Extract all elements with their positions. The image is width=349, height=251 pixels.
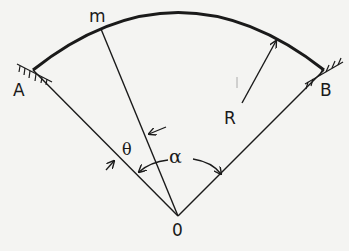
label-A: A [13, 80, 25, 100]
arch-diagram: m A B R θ α 0 [0, 0, 349, 251]
radius-R-arrow [242, 41, 276, 103]
alpha-arc-left [139, 160, 168, 172]
radius-line-Om [101, 29, 178, 216]
label-theta: θ [122, 140, 132, 159]
radius-line-OA [33, 70, 178, 216]
label-O: 0 [172, 220, 183, 240]
label-alpha: α [169, 145, 182, 167]
theta-arrow-to-OA [106, 161, 114, 170]
theta-arrow-to-Om [149, 127, 166, 134]
label-B: B [320, 80, 332, 100]
label-m: m [89, 6, 106, 26]
alpha-arc-right [193, 159, 221, 174]
arch-arc [33, 13, 324, 71]
label-R: R [224, 108, 236, 128]
radius-line-OB [178, 70, 324, 216]
